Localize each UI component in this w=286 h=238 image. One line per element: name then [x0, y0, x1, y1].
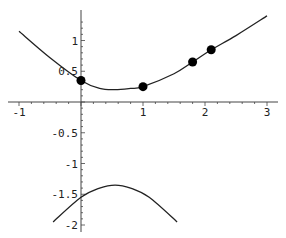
y-tick-label: -2	[65, 219, 78, 232]
data-point	[207, 45, 216, 54]
y-tick-label: -0.5	[52, 127, 79, 140]
upper-branch-curve	[19, 16, 267, 90]
y-tick-label: 1	[71, 35, 78, 48]
y-tick-label: -1	[65, 158, 78, 171]
x-tick-label: 2	[202, 106, 209, 119]
y-tick-label: -1.5	[52, 188, 79, 201]
x-tick-label: 1	[140, 106, 147, 119]
y-tick-label: 0.5	[58, 65, 78, 78]
data-point	[139, 82, 148, 91]
x-tick-label: 3	[264, 106, 271, 119]
plot: -112310.5-0.5-1-1.5-2	[0, 0, 286, 238]
y-axis	[81, 10, 85, 232]
data-point	[188, 58, 197, 67]
data-points	[77, 45, 216, 91]
tick-labels: -112310.5-0.5-1-1.5-2	[12, 35, 270, 233]
x-tick-label: -1	[12, 106, 25, 119]
